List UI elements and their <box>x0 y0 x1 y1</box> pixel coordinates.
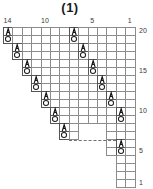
column-label: 10 <box>41 17 49 25</box>
symbol-glyph-text: O <box>3 35 4 36</box>
stitch-grid: AOAOAOAOAOAOAOAOAOAOAOAOAOAO <box>3 27 139 187</box>
grid-cell <box>125 179 135 188</box>
yarn-over-ring <box>80 52 86 57</box>
yarn-over-ring <box>33 84 39 89</box>
yarn-over-ring <box>61 132 67 137</box>
stitch-chart: (1) 141051 20151051 AOAOAOAOAOAOAOAOAOAO… <box>0 0 153 189</box>
row-label: 20 <box>139 27 147 35</box>
column-label: 1 <box>128 17 132 25</box>
symbol-glyph-text: O <box>31 83 32 84</box>
symbol-glyph-text: O <box>116 115 117 116</box>
column-label: 5 <box>90 17 94 25</box>
yarn-over-ring <box>52 116 58 121</box>
column-number-axis: 141051 <box>0 17 153 27</box>
symbol-glyph-text: O <box>69 35 70 36</box>
symbol-glyph-text: O <box>88 67 89 68</box>
yarn-over-ring <box>5 36 11 41</box>
yarn-over-icon: O <box>116 115 126 124</box>
symbol-glyph-text: O <box>78 51 79 52</box>
row-label: 15 <box>139 67 147 75</box>
yarn-over-ring <box>14 52 20 57</box>
yarn-over-ring <box>71 36 77 41</box>
yarn-over-icon: O <box>116 147 126 156</box>
repeat-connector-line <box>69 140 116 141</box>
yarn-over-ring <box>99 84 105 89</box>
chart-title: (1) <box>0 1 140 15</box>
yarn-over-ring <box>118 148 124 153</box>
row-number-axis: 20151051 <box>139 27 153 187</box>
row-label: 10 <box>139 107 147 115</box>
yarn-over-ring <box>43 100 49 105</box>
symbol-glyph-text: O <box>106 99 107 100</box>
symbol-glyph-text: O <box>59 131 60 132</box>
symbol-glyph-text: O <box>12 51 13 52</box>
yarn-over-ring <box>108 100 114 105</box>
row-label: 1 <box>139 179 143 187</box>
row-label: 5 <box>139 147 143 155</box>
yarn-over-ring <box>90 68 96 73</box>
symbol-glyph-text: O <box>116 147 117 148</box>
symbol-glyph-text: O <box>50 115 51 116</box>
yarn-over-ring <box>118 116 124 121</box>
symbol-glyph-text: O <box>97 83 98 84</box>
symbol-glyph-text: O <box>22 67 23 68</box>
symbol-glyph-text: O <box>41 99 42 100</box>
column-label: 14 <box>4 17 12 25</box>
yarn-over-ring <box>24 68 30 73</box>
